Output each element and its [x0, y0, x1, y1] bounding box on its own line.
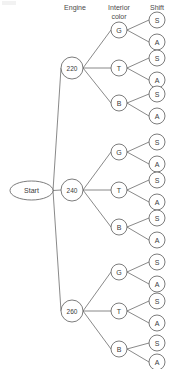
engine-node-label-2: 260	[67, 308, 78, 315]
shift-node-label-7: A	[155, 161, 160, 168]
branch-color-shift-17	[127, 349, 149, 362]
branch-color-shift-1	[127, 30, 149, 42]
interior-color-node-label-5: B	[117, 224, 122, 231]
branch-root-engine-1	[53, 190, 61, 191]
column-header-2: color	[111, 13, 127, 20]
interior-color-node-label-8: B	[117, 346, 122, 353]
column-header-3: Shift	[150, 4, 164, 11]
shift-node-label-17: A	[155, 359, 160, 366]
branch-engine-color-2	[83, 68, 111, 103]
branch-color-shift-4	[127, 94, 149, 103]
branch-engine-color-0	[83, 30, 111, 68]
branch-color-shift-3	[127, 68, 149, 80]
interior-color-node-label-3: G	[116, 149, 121, 156]
edges-root-to-engine	[53, 68, 61, 311]
shift-node-label-13: A	[155, 281, 160, 288]
column-header-0: Engine	[64, 4, 86, 12]
shift-node-label-12: S	[155, 259, 160, 266]
shift-node-label-11: A	[155, 237, 160, 244]
shift-node-label-1: A	[155, 39, 160, 46]
branch-color-shift-7	[127, 152, 149, 164]
shift-node-label-6: S	[155, 139, 160, 146]
branch-engine-color-5	[83, 190, 111, 227]
branch-color-shift-9	[127, 190, 149, 202]
start-node[interactable]: Start	[10, 181, 53, 200]
shift-node-label-5: A	[155, 113, 160, 120]
edges-color-to-shift	[127, 20, 149, 362]
branch-engine-color-6	[83, 272, 111, 311]
branch-color-shift-14	[127, 301, 149, 311]
interior-color-node-label-7: T	[117, 308, 122, 315]
probability-tree-diagram: EngineInteriorcolorShift Start 220240260…	[0, 0, 173, 369]
shift-node-label-15: A	[155, 320, 160, 327]
shift-node-label-4: S	[155, 91, 160, 98]
interior-color-node-label-2: B	[117, 100, 122, 107]
shift-node-label-2: S	[155, 55, 160, 62]
branch-color-shift-10	[127, 218, 149, 227]
shift-node-label-9: A	[155, 199, 160, 206]
shift-node-label-8: S	[155, 177, 160, 184]
branch-color-shift-5	[127, 103, 149, 116]
branch-color-shift-8	[127, 180, 149, 190]
tree-diagram-page: EngineInteriorcolorShift Start 220240260…	[0, 0, 173, 369]
interior-color-node-label-1: T	[117, 65, 122, 72]
branch-color-shift-16	[127, 343, 149, 349]
shift-node-label-3: A	[155, 77, 160, 84]
branch-color-shift-12	[127, 262, 149, 272]
interior-color-node-label-4: T	[117, 187, 122, 194]
branch-color-shift-2	[127, 58, 149, 68]
shift-node-label-14: S	[155, 298, 160, 305]
engine-node-label-1: 240	[67, 187, 78, 194]
branch-root-engine-0	[53, 68, 61, 191]
branch-engine-color-8	[83, 311, 111, 349]
branch-color-shift-11	[127, 227, 149, 240]
shift-node-label-16: S	[155, 340, 160, 347]
branch-color-shift-0	[127, 20, 149, 30]
shift-node-label-0: S	[155, 17, 160, 24]
branch-color-shift-13	[127, 272, 149, 284]
branch-root-engine-2	[53, 191, 61, 312]
engine-nodes: 220240260	[61, 57, 83, 322]
branch-color-shift-6	[127, 142, 149, 152]
start-node-label: Start	[24, 187, 39, 194]
column-header-1: Interior	[108, 4, 130, 11]
shift-node-label-10: S	[155, 215, 160, 222]
edges-engine-to-color	[83, 30, 111, 349]
branch-engine-color-3	[83, 152, 111, 190]
interior-color-nodes: GTBGTBGTB	[111, 22, 127, 357]
engine-node-label-0: 220	[67, 65, 78, 72]
interior-color-node-label-6: G	[116, 269, 121, 276]
branch-color-shift-15	[127, 311, 149, 323]
shift-nodes: SASASASASASASASASA	[149, 12, 165, 369]
interior-color-node-label-0: G	[116, 27, 121, 34]
